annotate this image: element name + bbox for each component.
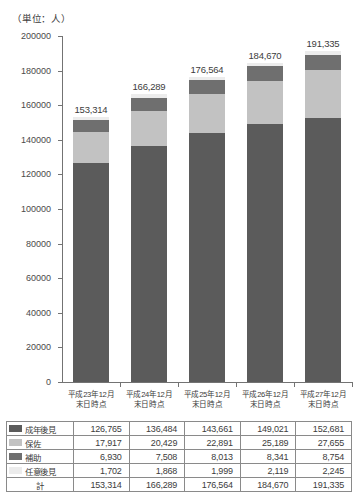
table-cell: 8,754 xyxy=(296,450,352,464)
bar-total-label: 153,314 xyxy=(59,104,123,115)
bar-segment xyxy=(189,80,225,94)
y-axis-tick xyxy=(58,278,63,279)
table-cell: 126,765 xyxy=(74,422,130,436)
table-row: 成年後見126,765136,484143,661149,021152,681 xyxy=(7,422,352,436)
table-total-cell: 176,564 xyxy=(185,478,241,492)
table-total-label-cell: 計 xyxy=(7,478,74,492)
bar-column[interactable] xyxy=(73,117,109,382)
legend-label: 補助 xyxy=(25,451,40,463)
x-axis-tick xyxy=(178,382,179,387)
x-axis-tick xyxy=(120,382,121,387)
table-cell: 7,508 xyxy=(129,450,185,464)
bar-total-label: 166,289 xyxy=(117,81,181,92)
table-cell: 143,661 xyxy=(185,422,241,436)
y-axis-tick xyxy=(58,209,63,210)
bar-segment xyxy=(305,70,341,118)
table-cell: 152,681 xyxy=(296,422,352,436)
bar-segment xyxy=(189,133,225,382)
legend-swatch-icon xyxy=(9,453,22,460)
table-total-cell: 166,289 xyxy=(129,478,185,492)
y-axis-tick-label: 160000 xyxy=(21,100,51,110)
table-cell: 1,868 xyxy=(129,464,185,478)
x-axis-tick xyxy=(294,382,295,387)
plot-area: 2000001800001600001400001200001000008000… xyxy=(62,36,352,383)
bar-segment xyxy=(73,163,109,382)
x-axis-tick xyxy=(236,382,237,387)
bar-segment xyxy=(131,111,167,146)
y-axis-tick-label: 40000 xyxy=(26,308,51,318)
table-row-legend-cell: 任意後見 xyxy=(7,464,74,478)
table-total-row: 計153,314166,289176,564184,670191,335 xyxy=(7,478,352,492)
x-axis-tick xyxy=(352,382,353,387)
table-cell: 8,013 xyxy=(185,450,241,464)
y-axis-tick-label: 80000 xyxy=(26,239,51,249)
bar-column[interactable] xyxy=(131,94,167,382)
table-total-cell: 191,335 xyxy=(296,478,352,492)
table-cell: 20,429 xyxy=(129,436,185,450)
table-row-legend-cell: 成年後見 xyxy=(7,422,74,436)
y-axis-tick xyxy=(58,347,63,348)
legend-label: 成年後見 xyxy=(25,423,56,435)
bar-column[interactable] xyxy=(247,63,283,382)
bar-segment xyxy=(247,81,283,125)
table-cell: 6,930 xyxy=(74,450,130,464)
chart-page: （単位：人） 200000180000160000140000120000100… xyxy=(0,0,358,497)
bar-segment xyxy=(131,146,167,382)
y-axis-tick-label: 100000 xyxy=(21,204,51,214)
table-row: 補助6,9307,5088,0138,3418,754 xyxy=(7,450,352,464)
y-axis-tick-label: 200000 xyxy=(21,31,51,41)
x-axis-category-line: 末日時点 xyxy=(288,400,358,410)
bar-segment xyxy=(247,66,283,80)
legend-label: 任意後見 xyxy=(25,465,56,477)
table-cell: 25,189 xyxy=(240,436,296,450)
bar-segment xyxy=(247,124,283,382)
table-cell: 136,484 xyxy=(129,422,185,436)
y-axis-tick-label: 140000 xyxy=(21,135,51,145)
table-cell: 1,702 xyxy=(74,464,130,478)
y-axis-tick xyxy=(58,244,63,245)
y-axis-tick xyxy=(58,140,63,141)
y-axis-tick-label: 180000 xyxy=(21,66,51,76)
bar-column[interactable] xyxy=(189,77,225,382)
table-cell: 2,119 xyxy=(240,464,296,478)
legend-swatch-icon xyxy=(9,439,22,446)
y-axis-tick xyxy=(58,313,63,314)
y-axis-tick xyxy=(58,71,63,72)
y-axis-tick-label: 60000 xyxy=(26,273,51,283)
table-cell: 2,245 xyxy=(296,464,352,478)
bar-segment xyxy=(131,98,167,111)
legend-swatch-icon xyxy=(9,425,22,432)
table-cell: 22,891 xyxy=(185,436,241,450)
bar-segment xyxy=(305,55,341,70)
bar-total-label: 176,564 xyxy=(175,64,239,75)
table-total-cell: 153,314 xyxy=(74,478,130,492)
table-row: 任意後見1,7021,8681,9992,1192,245 xyxy=(7,464,352,478)
y-axis-tick xyxy=(58,174,63,175)
table-cell: 1,999 xyxy=(185,464,241,478)
y-axis-tick-label: 120000 xyxy=(21,169,51,179)
y-axis-tick xyxy=(58,382,63,383)
table-cell: 27,655 xyxy=(296,436,352,450)
x-axis-line xyxy=(62,382,352,383)
table-total-cell: 184,670 xyxy=(240,478,296,492)
table-row-legend-cell: 補助 xyxy=(7,450,74,464)
table-row: 保佐17,91720,42922,89125,18927,655 xyxy=(7,436,352,450)
table-cell: 17,917 xyxy=(74,436,130,450)
x-axis-category-label: 平成27年12月末日時点 xyxy=(288,390,358,409)
legend-label: 保佐 xyxy=(25,437,40,449)
bar-segment xyxy=(305,118,341,382)
bar-total-label: 184,670 xyxy=(233,50,297,61)
y-axis-tick xyxy=(58,36,63,37)
data-table: 成年後見126,765136,484143,661149,021152,681保… xyxy=(6,421,352,492)
bar-total-label: 191,335 xyxy=(291,38,355,49)
bar-segment xyxy=(73,120,109,132)
table-cell: 8,341 xyxy=(240,450,296,464)
table-total-label: 計 xyxy=(36,481,44,491)
bar-column[interactable] xyxy=(305,51,341,382)
bar-segment xyxy=(189,94,225,134)
y-axis-tick-label: 20000 xyxy=(26,342,51,352)
table-row-legend-cell: 保佐 xyxy=(7,436,74,450)
y-axis-tick-label: 0 xyxy=(46,377,51,387)
table-cell: 149,021 xyxy=(240,422,296,436)
x-axis-category-line: 平成27年12月 xyxy=(288,390,358,400)
